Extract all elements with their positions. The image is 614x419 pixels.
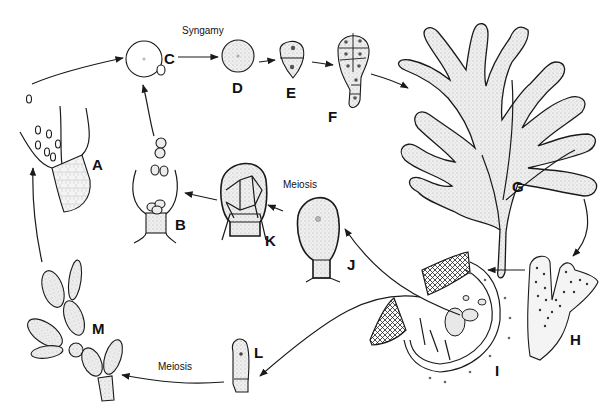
arrow-k-to-b (185, 193, 217, 200)
stage-l-cell: L (232, 339, 263, 392)
annotation-syngamy: Syngamy (182, 25, 224, 36)
stage-a-spermatangia: A (20, 95, 103, 212)
stage-c-syngamy: C Syngamy (126, 25, 224, 77)
stage-e-two-cell: E (280, 41, 304, 101)
stage-label-i: I (495, 362, 499, 379)
arrow-b-to-c (143, 85, 154, 136)
stage-b-spore-release: B (133, 138, 186, 243)
stage-label-d: D (232, 79, 243, 96)
arrow-d-to-e (259, 60, 275, 62)
stage-label-b: B (175, 216, 186, 233)
arrow-e-to-f (312, 62, 333, 65)
stage-d-zygote: D (222, 40, 254, 96)
stage-m-branched-filament: M (23, 259, 126, 401)
stage-label-m: M (92, 320, 105, 337)
annotation-meiosis-top: Meiosis (283, 179, 317, 190)
stage-label-c: C (164, 50, 175, 67)
arrow-g-to-h (573, 199, 588, 256)
stage-j-sporangium: J (298, 198, 356, 282)
arrow-m-to-a (33, 168, 42, 262)
stage-label-j: J (347, 256, 355, 273)
stage-label-k: K (265, 232, 276, 249)
arrow-a-to-c (32, 58, 123, 84)
stage-label-g: G (512, 178, 524, 195)
stage-label-l: L (254, 344, 263, 361)
arrow-f-to-g (371, 74, 408, 88)
stage-label-e: E (286, 84, 296, 101)
stage-h-fertile-tip: H (528, 256, 598, 360)
stage-f-germling: F (328, 33, 369, 125)
stage-label-h: H (570, 331, 581, 348)
stage-i-conceptacle: I (370, 252, 511, 383)
stage-label-f: F (328, 108, 337, 125)
arrow-j-to-k (268, 205, 283, 211)
annotation-meiosis-bottom: Meiosis (158, 361, 192, 372)
arrow-l-to-m (122, 375, 224, 383)
stage-label-a: A (92, 156, 103, 173)
life-cycle-diagram: A C Syngamy D E F (0, 0, 614, 419)
stage-g-thallus: G (399, 24, 597, 278)
